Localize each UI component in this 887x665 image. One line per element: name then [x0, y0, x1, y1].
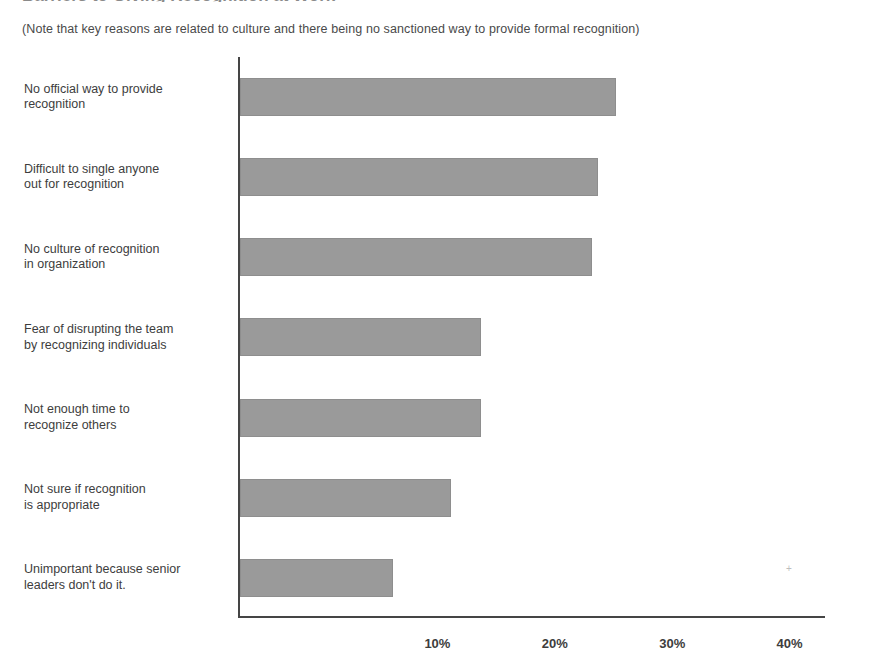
bar — [240, 318, 481, 356]
category-label-line: recognition — [24, 97, 230, 113]
bar-row — [240, 538, 393, 618]
category-label-line: out for recognition — [24, 177, 230, 193]
bar — [240, 399, 481, 437]
category-label: Not enough time torecognize others — [24, 402, 230, 433]
bar-row — [240, 217, 592, 297]
bar-row — [240, 378, 481, 458]
bar-row — [240, 137, 598, 217]
chart-title: Barriers to Giving Recognition at Work — [22, 0, 782, 2]
bar-series — [240, 57, 825, 615]
bar — [240, 559, 393, 597]
category-label-line: Not sure if recognition — [24, 482, 230, 498]
bar-row — [240, 297, 481, 377]
category-label-line: is appropriate — [24, 498, 230, 514]
scan-artifact-icon: + — [786, 565, 793, 572]
category-label-line: by recognizing individuals — [24, 338, 230, 354]
category-label-line: Difficult to single anyone — [24, 162, 230, 178]
category-label: Unimportant because seniorleaders don't … — [24, 562, 230, 593]
category-label-line: No official way to provide — [24, 82, 230, 98]
category-label: No official way to providerecognition — [24, 82, 230, 113]
chart-page: Barriers to Giving Recognition at Work (… — [0, 0, 887, 665]
chart-subtitle: (Note that key reasons are related to cu… — [22, 22, 640, 36]
x-tick-label: 20% — [542, 636, 568, 651]
x-tick-label: 40% — [777, 636, 803, 651]
category-label: No culture of recognitionin organization — [24, 242, 230, 273]
category-label-line: No culture of recognition — [24, 242, 230, 258]
x-tick-label: 10% — [424, 636, 450, 651]
bar — [240, 78, 616, 116]
category-label-line: Fear of disrupting the team — [24, 322, 230, 338]
category-label-line: Not enough time to — [24, 402, 230, 418]
category-label-line: recognize others — [24, 418, 230, 434]
category-label: Not sure if recognitionis appropriate — [24, 482, 230, 513]
category-axis-labels: Unimportant because seniorleaders don't … — [0, 57, 232, 618]
bar — [240, 479, 451, 517]
category-label-line: Unimportant because senior — [24, 562, 230, 578]
x-tick-label: 30% — [659, 636, 685, 651]
category-label: Difficult to single anyoneout for recogn… — [24, 162, 230, 193]
x-axis-tick-labels: 10%20%30%40%50% — [238, 636, 878, 656]
bar-row — [240, 57, 616, 137]
bar — [240, 158, 598, 196]
bar-row — [240, 458, 451, 538]
bar — [240, 238, 592, 276]
plot-area — [238, 57, 825, 618]
category-label-line: leaders don't do it. — [24, 578, 230, 594]
category-label-line: in organization — [24, 257, 230, 273]
category-label: Fear of disrupting the teamby recognizin… — [24, 322, 230, 353]
